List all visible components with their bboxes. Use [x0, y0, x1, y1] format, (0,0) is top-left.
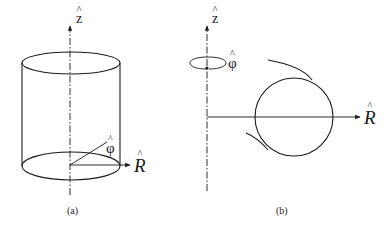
tangent-upper [268, 60, 312, 80]
caption-a: (a) [67, 206, 78, 216]
hat-symbol: ^ [364, 101, 376, 111]
hat-symbol: ^ [106, 134, 115, 144]
hat-symbol: ^ [76, 5, 82, 15]
phi-hat-label-a: ^φ [106, 141, 115, 156]
figure-canvas [0, 0, 391, 226]
tangent-lower [246, 133, 268, 150]
panel-a-cylinder [22, 26, 130, 195]
phi-vector-a [70, 142, 107, 165]
caption-b: (b) [276, 206, 288, 216]
cylinder-top-ellipse [22, 52, 120, 74]
hat-symbol: ^ [228, 49, 237, 59]
phi-hat-label-b: ^φ [228, 56, 237, 71]
hat-symbol: ^ [134, 149, 146, 159]
cylinder-bottom-ellipse [22, 152, 120, 180]
hat-symbol: ^ [212, 5, 218, 15]
z-hat-label-b: ^z [212, 12, 218, 26]
phi-rotation-dot [205, 66, 208, 69]
r-hat-label-a: ^R [134, 156, 146, 175]
r-hat-label-b: ^R [364, 108, 376, 127]
z-hat-label-a: ^z [76, 12, 82, 26]
panel-b-loop [190, 26, 360, 191]
